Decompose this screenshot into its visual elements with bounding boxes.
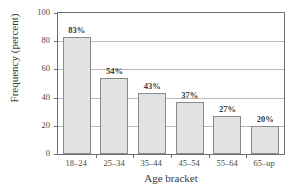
y-axis-tick-label: 80 (28, 36, 50, 44)
x-axis-tick-label: 35–44 (140, 158, 161, 168)
bar-value-label: 83% (68, 26, 85, 35)
bar[interactable] (138, 93, 166, 154)
bar-slot: 20% (246, 13, 284, 154)
bar[interactable] (63, 37, 91, 154)
x-axis-tick-label: 65–up (253, 158, 274, 168)
y-axis-tick-mark (54, 41, 58, 42)
bar-slot: 37% (171, 13, 209, 154)
x-axis-tick-labels: 18–2425–3435–4445–5455–6465–up (57, 158, 285, 170)
bar-value-label: 54% (106, 67, 123, 76)
x-axis-tick-label: 25–34 (103, 158, 124, 168)
chart-title (57, 0, 285, 2)
y-axis-tick-mark (54, 126, 58, 127)
bar[interactable] (213, 116, 241, 154)
bar-series: 83%54%43%37%27%20% (58, 13, 284, 154)
y-axis-tick-labels: 100806040200 (26, 0, 50, 193)
y-axis-tick-mark (54, 98, 58, 99)
y-axis-label: Frequency (percent) (8, 0, 20, 128)
bar-slot: 83% (58, 13, 96, 154)
bar[interactable] (176, 102, 204, 154)
x-axis-tick-label: 18–24 (65, 158, 86, 168)
bar-value-label: 27% (219, 105, 236, 114)
y-axis-tick-label: 60 (28, 64, 50, 72)
y-axis-tick-label: 20 (28, 121, 50, 129)
bar-value-label: 37% (181, 91, 198, 100)
bar-chart-figure: Frequency (percent) 100806040200 83%54%4… (0, 0, 293, 193)
bar-slot: 54% (96, 13, 134, 154)
plot-area: 83%54%43%37%27%20% (57, 12, 285, 155)
bar-value-label: 43% (144, 82, 161, 91)
bar[interactable] (100, 78, 128, 154)
y-axis-tick-label: 100 (28, 8, 50, 16)
y-axis-tick-label: 40 (28, 93, 50, 101)
x-axis-tick-label: 45–54 (178, 158, 199, 168)
bar-value-label: 20% (257, 115, 274, 124)
y-axis-tick-mark (54, 69, 58, 70)
x-axis-tick-label: 55–64 (216, 158, 237, 168)
y-axis-tick-label: 0 (28, 149, 50, 157)
y-axis-tick-mark (54, 154, 58, 155)
bar-slot: 27% (209, 13, 247, 154)
bar[interactable] (251, 126, 279, 154)
bar-slot: 43% (133, 13, 171, 154)
x-axis-label: Age bracket (57, 172, 285, 184)
y-axis-tick-mark (54, 13, 58, 14)
